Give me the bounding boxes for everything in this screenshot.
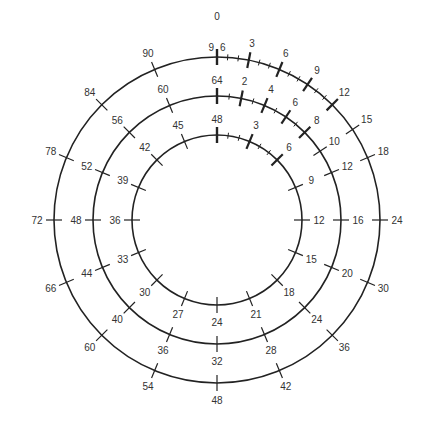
label-tick (324, 264, 339, 270)
tick-label: 24 (211, 317, 223, 328)
tick-label: 36 (109, 215, 121, 226)
label-tick (261, 98, 267, 113)
tick-label: 56 (112, 115, 124, 126)
label-tick (276, 363, 282, 378)
tick-label: 32 (211, 356, 223, 367)
tick-label: 60 (157, 84, 169, 95)
tick-label: 54 (143, 381, 155, 392)
tick-label: 12 (313, 215, 325, 226)
tick-label: 30 (378, 283, 390, 294)
tick-label: 12 (339, 87, 351, 98)
tick-label: 21 (250, 309, 262, 320)
concentric-dial-diagram: 0 36912151821242730333639424548246810121… (0, 0, 426, 422)
tick-label: 8 (314, 115, 320, 126)
label-tick (360, 279, 375, 285)
label-tick (166, 98, 172, 113)
zero-label: 0 (214, 11, 220, 22)
label-tick (240, 91, 243, 107)
tick-label: 15 (361, 114, 373, 125)
tick-label: 3 (253, 120, 259, 131)
tick-label: 45 (172, 120, 184, 131)
tick-label: 39 (117, 175, 129, 186)
tick-label: 52 (81, 161, 93, 172)
label-tick (59, 155, 74, 161)
tick-label: 48 (211, 395, 223, 406)
ring-inner: 36912151821242730333639424548 (109, 114, 325, 328)
tick-label: 12 (342, 161, 354, 172)
label-tick (303, 78, 312, 91)
tick-label: 15 (306, 254, 318, 265)
tick-label: 6 (283, 48, 289, 59)
ring-top-label-left: 9 (208, 42, 214, 53)
tick-label: 27 (172, 309, 184, 320)
label-tick (281, 110, 290, 123)
ring-top-label-right: 6 (220, 42, 226, 53)
label-tick (346, 125, 359, 134)
label-tick (166, 327, 172, 342)
tick-label: 6 (293, 97, 299, 108)
label-tick (360, 155, 375, 161)
tick-label: 20 (342, 268, 354, 279)
label-tick (324, 169, 339, 175)
tick-label: 42 (139, 142, 151, 153)
tick-label: 28 (265, 345, 277, 356)
minor-tick (228, 133, 229, 139)
tick-label: 33 (117, 254, 129, 265)
tick-label: 66 (45, 283, 57, 294)
tick-label: 10 (329, 136, 341, 147)
label-tick (59, 279, 74, 285)
ring-top-label: 64 (211, 75, 223, 86)
minor-tick (229, 94, 230, 100)
label-tick (276, 62, 282, 77)
label-tick (247, 52, 250, 68)
label-tick (152, 363, 158, 378)
tick-label: 40 (112, 314, 124, 325)
tick-label: 24 (311, 314, 323, 325)
ring-top-label: 48 (211, 114, 223, 125)
tick-label: 9 (308, 175, 314, 186)
label-tick (152, 62, 158, 77)
tick-label: 78 (45, 146, 57, 157)
minor-tick (238, 55, 239, 61)
tick-label: 44 (81, 268, 93, 279)
tick-label: 9 (314, 65, 320, 76)
label-tick (95, 169, 110, 175)
tick-label: 72 (31, 215, 43, 226)
tick-label: 6 (286, 142, 292, 153)
tick-label: 18 (378, 146, 390, 157)
tick-label: 2 (242, 76, 248, 87)
label-tick (95, 264, 110, 270)
tick-label: 90 (143, 48, 155, 59)
label-tick (313, 147, 326, 156)
tick-label: 30 (139, 287, 151, 298)
tick-label: 36 (339, 342, 351, 353)
tick-label: 36 (157, 345, 169, 356)
tick-label: 24 (391, 215, 403, 226)
tick-label: 60 (84, 342, 96, 353)
tick-label: 16 (352, 215, 364, 226)
tick-label: 42 (280, 381, 292, 392)
tick-label: 18 (284, 287, 296, 298)
rings-layer: 3691215182124273033363942454824681012162… (31, 38, 403, 406)
tick-label: 84 (84, 87, 96, 98)
tick-label: 3 (249, 38, 255, 49)
label-tick (261, 327, 267, 342)
tick-label: 48 (70, 215, 82, 226)
tick-label: 4 (268, 84, 274, 95)
